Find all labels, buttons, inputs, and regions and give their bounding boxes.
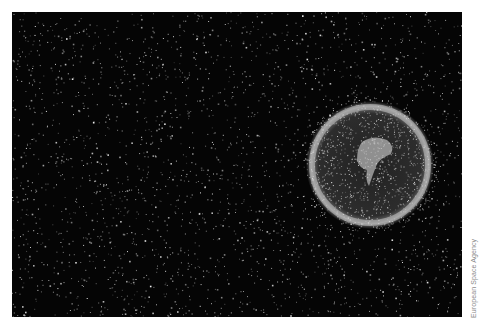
debris-field bbox=[12, 12, 462, 317]
image-credit: European Space Agency bbox=[470, 239, 477, 318]
space-debris-photo bbox=[12, 12, 462, 317]
